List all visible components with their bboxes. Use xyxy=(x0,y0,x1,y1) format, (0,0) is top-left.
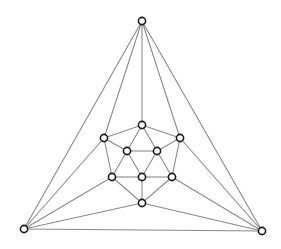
graph-edge xyxy=(142,125,180,138)
graph-edge xyxy=(142,177,172,203)
graph-node-rup xyxy=(176,134,183,141)
graph-edge xyxy=(24,229,262,231)
graph-edge xyxy=(104,125,142,138)
graph-edge xyxy=(24,177,112,229)
graph-node-ml xyxy=(108,173,115,180)
graph-node-mr xyxy=(168,173,175,180)
graph-edge xyxy=(172,177,262,231)
graph-edge xyxy=(112,177,142,203)
graph-node-bc xyxy=(138,199,145,206)
graph-node-mc xyxy=(138,173,145,180)
graph-node-bl xyxy=(20,225,27,232)
graph-node-ir xyxy=(153,147,160,154)
graph-edge xyxy=(104,138,112,177)
graph-diagram xyxy=(0,0,281,249)
graph-node-il xyxy=(123,147,130,154)
graph-edge xyxy=(127,151,142,177)
graph-edge xyxy=(180,138,262,231)
graph-node-top xyxy=(138,17,145,24)
graph-edge xyxy=(142,203,262,231)
graph-edge xyxy=(142,21,262,231)
graph-edge xyxy=(24,203,142,229)
graph-edge xyxy=(104,21,142,138)
graph-edge xyxy=(24,138,104,229)
graph-edge xyxy=(112,151,127,177)
graph-node-lup xyxy=(100,134,107,141)
graph-edge xyxy=(157,151,172,177)
graph-edge xyxy=(142,151,157,177)
graph-node-ctop xyxy=(138,121,145,128)
graph-edge xyxy=(142,21,180,138)
graph-node-br xyxy=(258,227,265,234)
graph-edge xyxy=(24,21,142,229)
graph-nodes xyxy=(20,17,265,234)
graph-edge xyxy=(172,138,180,177)
